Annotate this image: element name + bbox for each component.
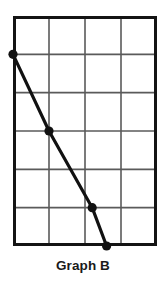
data-point-marker <box>102 241 111 250</box>
data-series <box>13 16 157 246</box>
graph-figure: Graph B <box>0 0 166 287</box>
series-line <box>13 54 107 246</box>
data-point-marker <box>8 50 17 59</box>
data-point-marker <box>44 126 53 135</box>
figure-caption: Graph B <box>0 258 166 273</box>
plot-area <box>13 16 157 246</box>
data-point-marker <box>88 203 97 212</box>
